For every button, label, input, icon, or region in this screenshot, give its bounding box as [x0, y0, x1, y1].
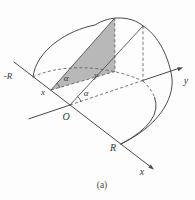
R-label: R	[109, 142, 116, 153]
y-axis-arrow-icon	[177, 67, 183, 71]
y-axis-label: y	[183, 75, 189, 86]
angle-arc-origin	[78, 97, 81, 102]
base-arc-hidden-dashed	[143, 81, 155, 97]
y-axis-positive-segment	[143, 68, 179, 80]
wedge-cylinder-figure: -R x α y α O y R x (a)	[0, 0, 195, 200]
section-y-label: y	[93, 70, 98, 80]
x-axis-label: x	[139, 166, 145, 177]
base-arc-solid	[121, 97, 156, 144]
minus-R-label: -R	[4, 71, 13, 81]
figure-caption: (a)	[97, 180, 108, 191]
section-x-label: x	[40, 87, 45, 97]
origin-alpha-label: α	[84, 88, 89, 98]
origin-label: O	[62, 111, 69, 122]
section-alpha-label: α	[64, 73, 69, 83]
